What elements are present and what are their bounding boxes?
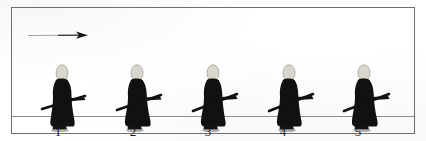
frame-number-label: 1 [43, 124, 73, 140]
frame-number-label: 5 [343, 124, 373, 140]
walker-silhouette [344, 65, 390, 132]
frame-number-label: 2 [118, 124, 148, 140]
walker-silhouette [193, 65, 238, 132]
walker-silhouette [117, 65, 162, 132]
frame-number-label: 3 [193, 124, 223, 140]
walker-silhouette [42, 65, 86, 132]
walker-silhouette [269, 65, 314, 132]
walkers-scene: 1 2 3 4 5 [11, 7, 415, 134]
frame-number-label: 4 [268, 124, 298, 140]
walking-sequence-figure: 1 2 3 4 5 [0, 0, 426, 141]
